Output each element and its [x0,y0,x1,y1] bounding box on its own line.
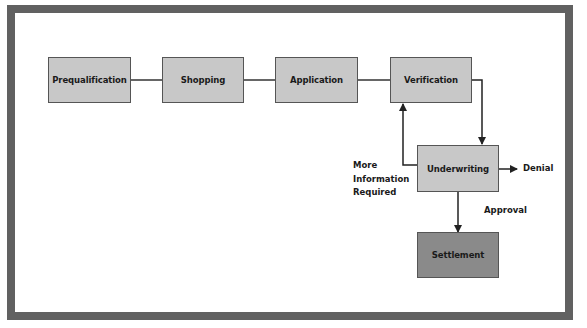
node-label: Prequalification [52,75,127,85]
node-prequalification: Prequalification [48,57,131,103]
approval-label: Approval [484,204,527,218]
node-verification: Verification [390,57,472,103]
edge-verification-underwriting [472,80,482,144]
node-label: Settlement [432,250,484,260]
edge-underwriting-verification [403,104,417,165]
node-label: Shopping [181,75,225,85]
node-shopping: Shopping [162,57,244,103]
node-label: Verification [404,75,458,85]
more-info-line-3: Required [353,186,409,200]
more-info-label: More Information Required [353,159,409,200]
more-info-line-2: Information [353,173,409,187]
node-label: Underwriting [427,164,489,174]
node-application: Application [275,57,358,103]
node-label: Application [290,75,343,85]
denial-label: Denial [523,162,553,176]
node-settlement: Settlement [417,232,499,278]
more-info-line-1: More [353,159,409,173]
node-underwriting: Underwriting [417,145,499,192]
